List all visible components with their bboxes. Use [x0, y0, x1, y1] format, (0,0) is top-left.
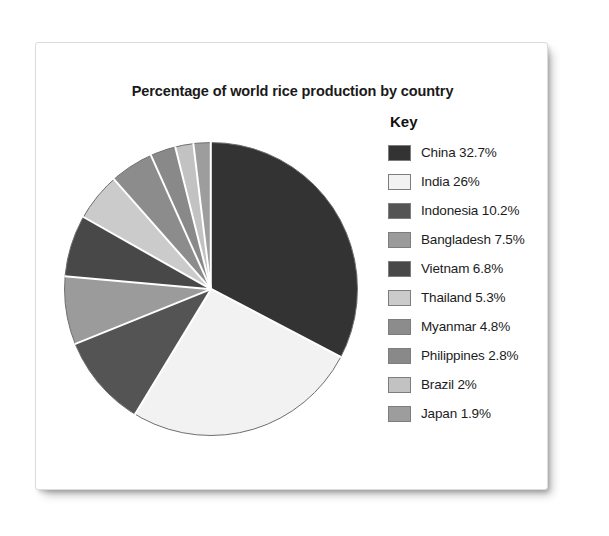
- legend-swatch-myanmar: [388, 319, 411, 335]
- legend-item[interactable]: Japan 1.9%: [388, 399, 548, 428]
- legend-swatch-india: [388, 174, 411, 190]
- legend-item[interactable]: Bangladesh 7.5%: [388, 225, 548, 254]
- legend-items: China 32.7%India 26%Indonesia 10.2%Bangl…: [388, 138, 548, 428]
- legend-label-japan: Japan 1.9%: [421, 406, 491, 421]
- legend-label-vietnam: Vietnam 6.8%: [421, 261, 503, 276]
- legend-swatch-brazil: [388, 377, 411, 393]
- legend-item[interactable]: Thailand 5.3%: [388, 283, 548, 312]
- legend-swatch-japan: [388, 406, 411, 422]
- legend-label-bangladesh: Bangladesh 7.5%: [421, 232, 525, 247]
- legend-swatch-vietnam: [388, 261, 411, 277]
- legend-item[interactable]: Indonesia 10.2%: [388, 196, 548, 225]
- legend-item[interactable]: China 32.7%: [388, 138, 548, 167]
- pie-slices: [64, 142, 358, 436]
- legend-title: Key: [390, 113, 548, 130]
- legend-label-thailand: Thailand 5.3%: [421, 290, 505, 305]
- legend-item[interactable]: Vietnam 6.8%: [388, 254, 548, 283]
- legend-swatch-thailand: [388, 290, 411, 306]
- pie-chart: [64, 142, 358, 436]
- legend-label-china: China 32.7%: [421, 145, 497, 160]
- legend-swatch-bangladesh: [388, 232, 411, 248]
- legend-item[interactable]: India 26%: [388, 167, 548, 196]
- legend-label-indonesia: Indonesia 10.2%: [421, 203, 519, 218]
- legend: Key China 32.7%India 26%Indonesia 10.2%B…: [388, 113, 548, 428]
- legend-label-brazil: Brazil 2%: [421, 377, 477, 392]
- page-root: Percentage of world rice production by c…: [0, 0, 609, 536]
- legend-swatch-china: [388, 145, 411, 161]
- legend-item[interactable]: Brazil 2%: [388, 370, 548, 399]
- legend-label-philippines: Philippines 2.8%: [421, 348, 518, 363]
- legend-swatch-philippines: [388, 348, 411, 364]
- legend-label-india: India 26%: [421, 174, 480, 189]
- page-title: Percentage of world rice production by c…: [36, 83, 549, 99]
- legend-label-myanmar: Myanmar 4.8%: [421, 319, 510, 334]
- legend-item[interactable]: Myanmar 4.8%: [388, 312, 548, 341]
- legend-swatch-indonesia: [388, 203, 411, 219]
- legend-item[interactable]: Philippines 2.8%: [388, 341, 548, 370]
- chart-paper-card: Percentage of world rice production by c…: [35, 42, 548, 490]
